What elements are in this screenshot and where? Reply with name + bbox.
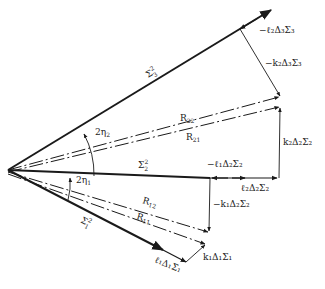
sigma3-vector xyxy=(8,10,271,170)
R12-vector xyxy=(8,172,208,232)
R11-label: R11 xyxy=(135,211,152,226)
k2-d2-s2-vector xyxy=(279,108,280,178)
neg-k2-d3-s3-label: −k₂Δ₃Σ₃ xyxy=(265,58,302,68)
k1-d1-s1-label: k₁Δ₁Σ₁ xyxy=(203,252,232,262)
vector-diagram: Σ23 R22 R21 2η2 2η1 Σ22 R12 R11 Σ21 −ℓ₂Δ… xyxy=(0,0,325,289)
neg-l1-d2-s2-label: −ℓ₁Δ₂Σ₂ xyxy=(207,159,243,169)
angle-2eta1-label: 2η1 xyxy=(76,175,91,186)
sigma2-label: Σ22 xyxy=(138,158,148,172)
angle-2eta2-label: 2η2 xyxy=(95,127,110,138)
R12-label: R12 xyxy=(141,195,158,210)
l2-d2-s2-label: ℓ₂Δ₂Σ₂ xyxy=(241,183,269,193)
neg-k1-d2-s2-vector xyxy=(209,178,210,231)
neg-k1-d2-s2-label: −k₁Δ₂Σ₂ xyxy=(213,199,250,209)
neg-l2-d3-s3-label: −ℓ₂Δ₃Σ₃ xyxy=(259,25,295,35)
R21-label: R21 xyxy=(186,132,200,143)
R22-label: R22 xyxy=(180,113,195,124)
sigma2-vector xyxy=(8,170,210,178)
sigma1-label: Σ21 xyxy=(78,213,94,230)
angle-2eta2-arc xyxy=(84,134,94,176)
angle-2eta1-arc xyxy=(68,178,70,200)
neg-l2-d3-s3-arrow xyxy=(240,18,258,29)
k2-d2-s2-label: k₂Δ₂Σ₂ xyxy=(283,137,313,147)
